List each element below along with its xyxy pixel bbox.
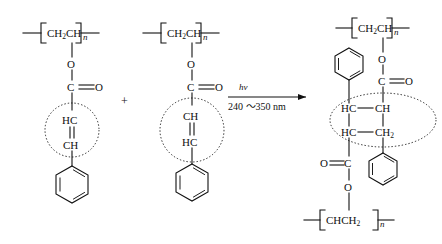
left-vinyl-bottom: CH — [63, 139, 78, 151]
left-ester-o: O — [67, 58, 75, 70]
reaction-arrow-head — [298, 94, 306, 100]
prod-bottom-carbonyl-c: C — [344, 157, 351, 169]
mid-ester-o: O — [187, 58, 195, 70]
prod-top-carbonyl-c: C — [378, 75, 385, 87]
left-bracket-open — [41, 23, 46, 43]
prod-top-carbonyl-o: O — [405, 75, 413, 87]
prod-cyclobutane-bottom-left: HC — [341, 126, 356, 138]
reaction-scheme: CH2CH n O C O HC CH + — [0, 0, 442, 244]
prod-cyclobutane-bottom-right: CH2 — [375, 126, 394, 140]
reaction-arrow-group: hν 240 ～350 nm — [228, 82, 306, 112]
left-carbonyl-o: O — [95, 81, 103, 93]
arrow-label-above: hν — [239, 82, 248, 92]
prod-cyclobutane-top-left: HC — [341, 102, 356, 114]
prod-top-backbone-label: CH2CH — [358, 22, 392, 36]
prod-bottom-bracket-open — [320, 210, 325, 230]
mid-bracket-open — [161, 23, 166, 43]
prod-top-ester-o: O — [378, 53, 386, 65]
prod-bottom-bracket-close — [373, 210, 378, 230]
mid-benzene-ring — [176, 164, 208, 201]
left-benzene-ring — [56, 166, 88, 203]
mid-carbonyl-o: O — [215, 81, 223, 93]
left-repeat-index: n — [83, 32, 88, 42]
reactant-left-structure: CH2CH n O C O HC CH — [23, 23, 103, 203]
prod-upper-benzene-ring — [335, 48, 363, 103]
mid-repeat-index: n — [203, 32, 208, 42]
mid-carbonyl-c: C — [187, 81, 194, 93]
mid-backbone-label: CH2CH — [167, 27, 201, 41]
prod-bottom-repeat-index: n — [380, 219, 385, 229]
plus-sign: + — [121, 94, 128, 108]
product-structure: CH2CH n O C O HC CH HC CH2 — [304, 18, 436, 230]
mid-vinyl-top: CH — [183, 110, 198, 122]
prod-bottom-backbone-label: CHCH2 — [326, 214, 361, 228]
prod-cyclobutane-top-right: CH — [375, 102, 390, 114]
left-carbonyl-c: C — [67, 81, 74, 93]
arrow-label-below: 240 ～350 nm — [228, 101, 286, 112]
prod-top-bracket-open — [352, 18, 357, 38]
mid-vinyl-bottom: HC — [182, 136, 197, 148]
left-vinyl-top: HC — [62, 114, 77, 126]
prod-lower-benzene-ring — [369, 153, 397, 185]
prod-top-repeat-index: n — [394, 27, 399, 37]
reactant-right-structure: CH2CH n O C O CH HC — [143, 23, 224, 201]
prod-bottom-carbonyl-o: O — [320, 157, 328, 169]
left-backbone-label: CH2CH — [47, 27, 81, 41]
prod-bottom-ester-o: O — [344, 181, 352, 193]
